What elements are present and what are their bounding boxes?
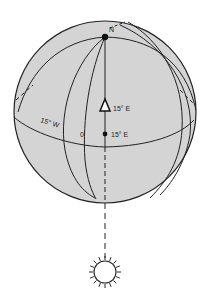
prime-meridian-label: 0 [80,131,84,138]
north-label: N [109,26,114,33]
dot-label: 15° E [111,131,129,138]
pole-dot-icon [102,34,108,40]
triangle-label: 15° E [113,105,131,112]
globe [14,21,196,203]
dot-marker-icon [103,132,108,137]
globe-diagram: N 15° E 15° E 15° W 0 [0,0,208,307]
sun-icon [89,256,121,288]
